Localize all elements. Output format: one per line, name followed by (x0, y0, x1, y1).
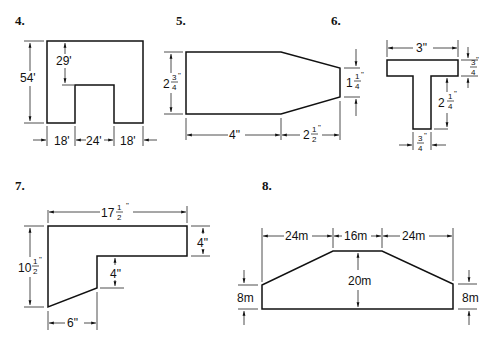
figure-8-top-label: 16m (344, 229, 367, 243)
figure-5-right-height-unit: " (361, 70, 364, 79)
figure-7-height-unit: " (39, 255, 42, 264)
figure-7-top-arm-label: 4" (197, 236, 208, 250)
figure-5-taper-den: 2 (312, 135, 317, 144)
figure-8-center-height-label: 20m (348, 274, 371, 288)
figure-8-right-side-label: 8m (462, 291, 479, 305)
figure-5-right-height-whole: 1 (346, 76, 353, 90)
figure-7-width-whole: 17 (101, 206, 115, 220)
figure-5-taper-unit: " (318, 123, 321, 132)
figure-sheet: 4. 54' 29' 18' 24' 18' 5. 2 3 (0, 0, 498, 342)
figure-7-number: 7. (15, 178, 25, 193)
figure-7-inner-step-label: 4" (110, 267, 121, 281)
figure-5-outline (186, 52, 340, 114)
figure-4-right-base-label: 18' (120, 134, 136, 148)
figure-8-left-slope-label: 24m (285, 229, 308, 243)
figure-5-taper-num: 1 (312, 125, 317, 134)
figure-6-flange-den: 4 (471, 68, 476, 77)
figure-5-length-label: 4" (229, 128, 240, 142)
figure-7-height-den: 2 (33, 267, 38, 276)
figure-5-height-den: 4 (172, 83, 177, 92)
figure-8: 8. 24m 16m 24m 20m 8m 8m (237, 178, 479, 325)
figure-4: 4. 54' 29' 18' 24' 18' (15, 13, 157, 148)
figure-7-height-whole: 10 (18, 261, 32, 275)
figure-7-width-den: 2 (117, 213, 122, 222)
figure-7-width-num: 1 (117, 203, 122, 212)
figure-6-stem-height-den: 4 (448, 102, 453, 111)
figure-6-stem-width-num: 3 (418, 134, 423, 143)
figure-4-number: 4. (15, 13, 25, 28)
figure-8-right-slope-label: 24m (402, 229, 425, 243)
figure-6-number: 6. (331, 13, 341, 28)
figure-5: 5. 2 3 4 " 1 1 4 " 4" 2 1 2 " (163, 13, 364, 144)
figure-6-flange-unit: " (476, 55, 479, 64)
figure-7-height-num: 1 (33, 257, 38, 266)
figure-8-number: 8. (262, 178, 272, 193)
figure-6-stem-width-den: 4 (418, 144, 423, 153)
figure-6-stem-width-unit: " (424, 131, 427, 140)
figure-7-bottom-width-label: 6" (67, 316, 78, 330)
figure-5-right-height-den: 4 (355, 82, 360, 91)
figure-5-number: 5. (176, 13, 186, 28)
figure-6-stem-height-unit: " (454, 89, 457, 98)
figure-7-width-unit: " (126, 201, 129, 210)
figure-4-notch-depth-label: 29' (56, 54, 72, 68)
figure-5-height-whole: 2 (163, 77, 170, 91)
figure-8-left-side-label: 8m (237, 291, 254, 305)
figure-4-height-label: 54' (20, 71, 36, 85)
figure-5-height-unit: " (178, 71, 181, 80)
figure-7: 7. 17 1 2 " 10 1 2 " 4" 4" (15, 178, 210, 330)
figure-6-stem-height-whole: 2 (438, 96, 445, 110)
figure-6-width-label: 3" (416, 41, 427, 55)
figure-6-stem-height-num: 1 (448, 92, 453, 101)
figure-5-taper-whole: 2 (303, 128, 310, 142)
figure-6: 6. 3" 3 4 " 2 1 4 " 3 4 " (331, 13, 479, 153)
figure-4-notch-width-label: 24' (86, 134, 102, 148)
figure-5-height-num: 3 (172, 73, 177, 82)
figure-5-right-height-num: 1 (355, 72, 360, 81)
figure-4-left-base-label: 18' (54, 134, 70, 148)
